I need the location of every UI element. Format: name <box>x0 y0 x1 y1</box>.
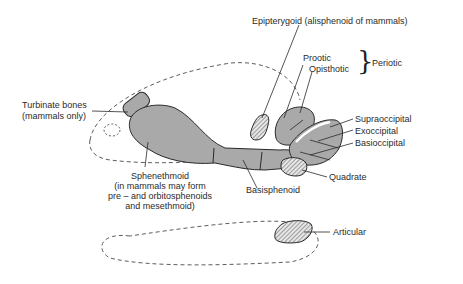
label-turbinate-1: Turbinate bones <box>22 100 87 110</box>
label-opisthotic: Opisthotic <box>309 64 349 74</box>
label-exoccipital: Exoccipital <box>355 126 398 136</box>
label-epipterygoid: Epipterygoid (alisphenoid of mammals) <box>252 16 408 26</box>
label-periotic: Periotic <box>372 58 402 68</box>
label-prootic: Prootic <box>303 53 331 63</box>
nostril-outline <box>104 124 120 136</box>
label-sphenethmoid-1: Sphenethmoid <box>100 171 220 181</box>
label-sphenethmoid-2: (in mammals may form <box>100 181 220 191</box>
label-supraoccipital: Supraoccipital <box>355 114 412 124</box>
label-basioccipital: Basioccipital <box>355 138 405 148</box>
label-sphenethmoid-4: and mesethmoid) <box>100 201 220 211</box>
label-sphenethmoid-3: pre – and orbitosphenoids <box>90 191 230 201</box>
label-articular: Articular <box>333 227 366 237</box>
epipterygoid-bone <box>251 115 269 140</box>
leader-opisthotic <box>300 72 312 113</box>
leader-epipterygoid <box>262 25 299 118</box>
leader-quadrate <box>302 170 327 177</box>
label-turbinate-2: (mammals only) <box>22 111 86 121</box>
sphenethmoid-bone <box>129 105 301 170</box>
leader-turbinate <box>92 111 128 112</box>
quadrate-bone <box>281 158 307 176</box>
label-quadrate: Quadrate <box>329 172 367 182</box>
label-basisphenoid: Basisphenoid <box>246 185 300 195</box>
